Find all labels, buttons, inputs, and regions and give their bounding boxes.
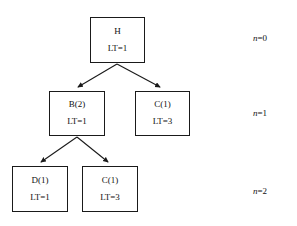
node-d1-label: D(1): [32, 176, 49, 186]
node-c1-level2[interactable]: C(1) LT=3: [82, 166, 138, 212]
level-label-n0-value: =0: [258, 33, 268, 43]
edge-b2-to-c1-level2: [77, 137, 108, 162]
node-c1-level1[interactable]: C(1) LT=3: [135, 91, 190, 136]
level-label-n2: n=2: [253, 186, 267, 196]
node-d1-lt: LT=1: [30, 193, 50, 203]
level-label-n2-value: =2: [258, 186, 268, 196]
level-label-n1: n=1: [253, 108, 267, 118]
diagram-canvas: H LT=1 B(2) LT=1 C(1) LT=3 D(1) LT=1 C(1…: [0, 0, 297, 226]
node-root-lt: LT=1: [108, 44, 128, 54]
node-d1[interactable]: D(1) LT=1: [12, 166, 68, 212]
level-label-n1-value: =1: [258, 108, 268, 118]
node-b2[interactable]: B(2) LT=1: [49, 91, 105, 136]
level-label-n0: n=0: [253, 33, 267, 43]
edge-b2-to-d1: [41, 137, 77, 162]
edge-root-to-b2: [78, 64, 117, 87]
node-c1-level2-lt: LT=3: [100, 193, 120, 203]
node-root[interactable]: H LT=1: [90, 17, 145, 63]
node-b2-lt: LT=1: [67, 117, 87, 127]
node-c1-level1-label: C(1): [154, 100, 171, 110]
edge-root-to-c1-level1: [117, 64, 160, 87]
node-c1-level1-lt: LT=3: [153, 117, 173, 127]
node-c1-level2-label: C(1): [102, 176, 119, 186]
node-b2-label: B(2): [69, 100, 86, 110]
node-root-label: H: [114, 27, 121, 37]
